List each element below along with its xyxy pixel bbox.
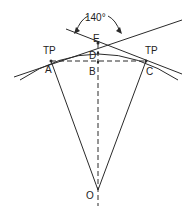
tp-right-label: TP	[145, 45, 158, 56]
curve-diagram: 140° TP TP A B C D E O	[0, 0, 196, 216]
point-b	[97, 61, 99, 63]
label-c: C	[146, 66, 153, 77]
point-a	[50, 60, 53, 63]
label-d: D	[89, 50, 96, 61]
radius-oa	[51, 61, 98, 190]
tp-left-label: TP	[43, 45, 56, 56]
label-a: A	[45, 64, 52, 75]
arrow-right-icon	[116, 27, 122, 34]
label-e: E	[93, 33, 100, 44]
label-o: O	[86, 190, 94, 201]
radius-oc	[98, 61, 146, 190]
angle-label: 140°	[85, 12, 106, 23]
tangent-line-right	[66, 29, 182, 74]
label-b: B	[89, 66, 96, 77]
curve-arc	[20, 54, 178, 80]
point-d	[97, 52, 99, 54]
point-c	[145, 60, 148, 63]
